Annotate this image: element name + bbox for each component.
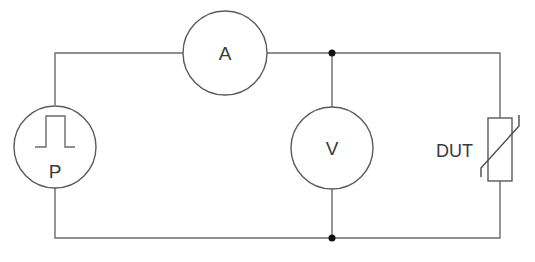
wires: [55, 53, 500, 238]
voltmeter: V: [291, 107, 373, 189]
circuit-diagram: P A V DUT: [0, 0, 535, 262]
pulse-source-label: P: [49, 161, 62, 182]
dut-body: [488, 118, 512, 181]
wire-left-top: [55, 53, 183, 105]
dut-label: DUT: [436, 141, 473, 161]
wire-bottom: [55, 181, 500, 238]
wire-top-right: [267, 53, 500, 118]
pulse-source: P: [14, 106, 96, 188]
device-under-test: DUT: [436, 115, 519, 181]
ammeter-label: A: [219, 43, 232, 64]
junction-bottom: [329, 235, 336, 242]
ammeter: A: [183, 11, 267, 95]
junction-top: [329, 50, 336, 57]
voltmeter-label: V: [326, 138, 339, 159]
